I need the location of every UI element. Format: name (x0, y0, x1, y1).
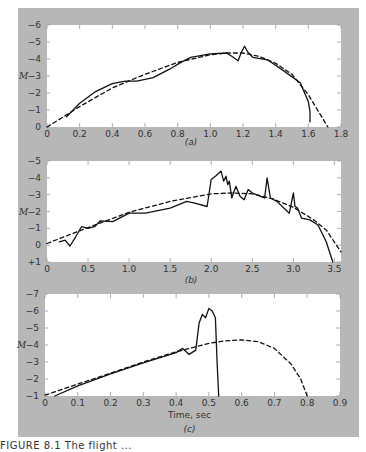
x-tick-label: 2.0 (204, 264, 219, 274)
x-tick-label: 3.5 (327, 264, 341, 274)
y-tick-label: −6 (26, 306, 40, 316)
x-tick-label: 0.2 (103, 398, 117, 408)
y-axis-label: M (18, 71, 29, 81)
x-tick-label: 0.5 (81, 264, 95, 274)
x-tick-label: 0.8 (300, 398, 315, 408)
plot-area (47, 161, 341, 262)
x-tick-label: 0.2 (73, 129, 87, 139)
y-tick-label: +1 (28, 257, 41, 267)
y-tick-label: −5 (28, 37, 41, 47)
y-tick-label: −4 (28, 173, 42, 183)
x-tick-label: 1.0 (122, 264, 137, 274)
x-tick-label: 0 (42, 398, 48, 408)
x-tick-label: 1.4 (269, 129, 284, 139)
y-tick-label: −4 (26, 340, 40, 350)
x-tick-label: 0.3 (136, 398, 150, 408)
panel-label: (a) (185, 137, 198, 147)
x-tick-label: 0.1 (71, 398, 85, 408)
y-tick-label: −5 (28, 156, 41, 166)
y-axis-label: M (18, 207, 29, 217)
y-tick-label: −1 (26, 391, 39, 401)
y-tick-label: −2 (26, 374, 39, 384)
x-tick-label: 1.0 (203, 129, 218, 139)
x-tick-label: 0.8 (171, 129, 186, 139)
x-tick-label: 1.6 (301, 129, 316, 139)
chart-panel-b: 00.51.01.52.02.53.03.5+10−1−2−3−4−5M(b) (18, 156, 342, 285)
panel-label: (b) (185, 275, 198, 285)
plot-area (45, 294, 340, 396)
y-tick-label: −3 (28, 190, 41, 200)
x-tick-label: 0 (44, 264, 50, 274)
x-tick-label: 2.5 (245, 264, 259, 274)
x-axis-label: Time, sec (167, 410, 211, 420)
y-tick-label: −4 (28, 54, 42, 64)
figure-caption: FIGURE 8.1 The flight ... (0, 440, 366, 452)
panel-label: (c) (184, 424, 196, 434)
y-tick-label: −6 (28, 20, 42, 30)
y-tick-label: −2 (28, 207, 41, 217)
y-axis-label: M (16, 340, 27, 350)
y-tick-label: −3 (28, 71, 41, 81)
chart-panel-a: 00.20.40.60.81.01.21.41.61.80−1−2−3−4−5−… (18, 20, 348, 147)
x-tick-label: 1.8 (334, 129, 349, 139)
x-tick-label: 0.7 (267, 398, 281, 408)
x-tick-label: 0 (44, 129, 50, 139)
y-tick-label: −1 (28, 105, 41, 115)
y-tick-label: −7 (26, 289, 39, 299)
x-tick-label: 1.5 (163, 264, 177, 274)
x-tick-label: 0.6 (138, 129, 153, 139)
chart-panel-c: 00.10.20.30.40.50.60.70.80.9−1−2−3−4−5−6… (16, 289, 347, 434)
figure-canvas: 00.20.40.60.81.01.21.41.61.80−1−2−3−4−5−… (0, 0, 366, 452)
y-tick-label: −5 (26, 323, 39, 333)
x-tick-label: 3.0 (286, 264, 301, 274)
x-tick-label: 0.4 (169, 398, 184, 408)
y-tick-label: −3 (26, 357, 39, 367)
x-tick-label: 0.6 (235, 398, 250, 408)
plot-area (47, 25, 341, 127)
x-tick-label: 1.2 (236, 129, 250, 139)
x-tick-label: 0.5 (202, 398, 216, 408)
y-tick-label: −1 (28, 223, 41, 233)
y-tick-label: 0 (35, 122, 41, 132)
x-tick-label: 0.9 (333, 398, 348, 408)
x-tick-label: 0.4 (105, 129, 120, 139)
y-tick-label: 0 (35, 240, 41, 250)
y-tick-label: −2 (28, 88, 41, 98)
